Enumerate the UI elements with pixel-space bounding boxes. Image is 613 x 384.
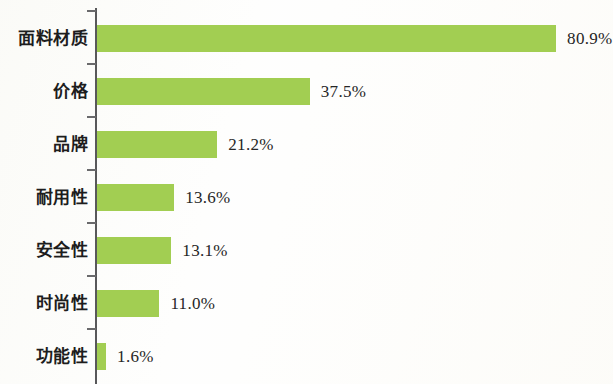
bar-value-label: 37.5%: [321, 78, 366, 105]
axis-tick: [87, 222, 96, 224]
axis-tick: [87, 63, 96, 65]
category-label: 时尚性: [0, 290, 88, 317]
axis-tick: [87, 328, 96, 330]
bar[interactable]: [97, 184, 174, 211]
category-label: 耐用性: [0, 184, 88, 211]
axis-tick: [87, 275, 96, 277]
bar-row: 耐用性13.6%: [0, 184, 613, 211]
axis-tick: [87, 116, 96, 118]
bar-row: 面料材质80.9%: [0, 25, 613, 52]
category-label: 面料材质: [0, 25, 88, 52]
bar-value-label: 1.6%: [117, 343, 154, 370]
bar-value-label: 13.1%: [182, 237, 227, 264]
category-label: 价格: [0, 78, 88, 105]
bar-chart: 面料材质80.9%价格37.5%品牌21.2%耐用性13.6%安全性13.1%时…: [0, 0, 613, 384]
bar[interactable]: [97, 343, 106, 370]
axis-tick: [87, 10, 96, 12]
bar-value-label: 13.6%: [185, 184, 230, 211]
axis-tick: [87, 169, 96, 171]
bar[interactable]: [97, 25, 556, 52]
bar-row: 时尚性11.0%: [0, 290, 613, 317]
bar[interactable]: [97, 290, 159, 317]
bar-row: 品牌21.2%: [0, 131, 613, 158]
bar-value-label: 80.9%: [567, 25, 612, 52]
bar-row: 功能性1.6%: [0, 343, 613, 370]
bar[interactable]: [97, 237, 171, 264]
bar-row: 价格37.5%: [0, 78, 613, 105]
bar[interactable]: [97, 78, 310, 105]
category-label: 安全性: [0, 237, 88, 264]
bar-row: 安全性13.1%: [0, 237, 613, 264]
bar[interactable]: [97, 131, 217, 158]
bar-value-label: 21.2%: [228, 131, 273, 158]
category-label: 功能性: [0, 343, 88, 370]
bar-value-label: 11.0%: [170, 290, 215, 317]
category-label: 品牌: [0, 131, 88, 158]
